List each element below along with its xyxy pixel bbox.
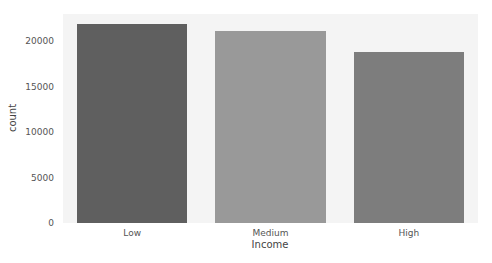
bar-chart: 05000100001500020000 LowMediumHigh Incom… (0, 0, 492, 263)
y-axis-label: count (7, 104, 18, 132)
y-tick-label: 10000 (25, 127, 54, 137)
y-tick-label: 20000 (25, 36, 54, 46)
y-tick-label: 0 (48, 218, 54, 228)
y-tick-label: 15000 (25, 82, 54, 92)
bar-high (354, 52, 465, 223)
y-tick-label: 5000 (31, 173, 54, 183)
x-tick-label: High (398, 228, 419, 238)
x-tick-label: Low (123, 228, 141, 238)
x-axis-label: Income (252, 239, 289, 250)
bar-medium (215, 31, 326, 223)
x-tick-label: Medium (253, 228, 289, 238)
bar-low (77, 24, 188, 223)
